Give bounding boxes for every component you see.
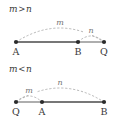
arc-n-b-to-q: [78, 36, 104, 42]
point-label-a-2: A: [35, 106, 49, 117]
point-label-q-2: Q: [9, 106, 23, 117]
geometry-figure: m>n m n A B Q m<n: [0, 0, 116, 120]
arc-label-m-2: m: [22, 86, 36, 95]
arc-m-q-to-a: [16, 96, 42, 102]
point-label-q: Q: [97, 46, 111, 57]
arc-label-m: m: [53, 18, 67, 27]
point-label-a: A: [9, 46, 23, 57]
point-label-b: B: [71, 46, 85, 57]
point-dot-b-2: [102, 100, 106, 104]
point-dot-q-2: [14, 100, 18, 104]
point-dot-b: [76, 40, 80, 44]
point-dot-a-2: [40, 100, 44, 104]
point-dot-q: [102, 40, 106, 44]
diagram-panel-m-greater-n: m>n m n A B Q: [0, 0, 116, 60]
point-dot-a: [14, 40, 18, 44]
point-label-b-2: B: [97, 106, 111, 117]
arc-label-n: n: [84, 26, 98, 35]
arc-label-n-2: n: [53, 78, 67, 87]
diagram-panel-m-less-n: m<n n m Q A B: [0, 60, 116, 120]
